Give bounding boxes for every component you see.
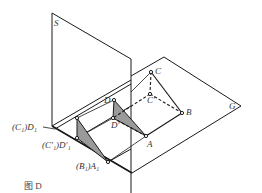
- label-plane-s: S: [54, 19, 59, 28]
- label-b1-a1: (B₁)A₁: [76, 162, 99, 171]
- label-d: D: [104, 96, 111, 105]
- point-c1p-d1p: [75, 136, 78, 139]
- point-b: [180, 111, 183, 114]
- label-b: B: [186, 108, 192, 117]
- label-c1-d1: (C₁)D₁: [12, 123, 37, 132]
- shaded-triangle-left: [77, 118, 108, 162]
- projection-drawing: [0, 0, 262, 193]
- point-a: [144, 134, 147, 137]
- label-d-prime: D': [111, 121, 119, 130]
- plane-g: [52, 57, 241, 173]
- point-b1-a1: [106, 160, 109, 163]
- figure-caption: 图 D: [24, 182, 42, 191]
- diagram-canvas: S G C C' B A D D' (C₁)D₁ (C'₁)D'₁ (B₁)A₁…: [0, 0, 262, 193]
- label-plane-g: G: [229, 102, 236, 111]
- label-c1p-d1p: (C'₁)D'₁: [42, 141, 71, 150]
- point-d: [112, 98, 115, 101]
- label-c-prime: C': [147, 96, 155, 105]
- point-c: [149, 70, 152, 73]
- ground-lines: [52, 80, 132, 173]
- shaded-triangle-right: [113, 100, 146, 136]
- label-a: A: [147, 140, 153, 149]
- point-left-top: [75, 116, 78, 119]
- label-c: C: [155, 67, 161, 76]
